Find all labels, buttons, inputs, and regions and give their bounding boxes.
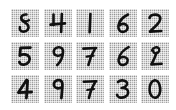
digit-tile-9[interactable] — [44, 75, 72, 103]
digit-tile-5[interactable] — [11, 42, 39, 70]
digit-tile-3[interactable] — [109, 75, 137, 103]
digit-glyph-two-icon — [141, 42, 169, 70]
digit-glyph-seven-icon — [76, 42, 104, 70]
digit-tile-8[interactable] — [11, 9, 39, 37]
digit-tile-7-crossed[interactable] — [76, 42, 104, 70]
digit-glyph-eight-icon — [11, 9, 39, 37]
digit-tile-9[interactable] — [44, 42, 72, 70]
digit-glyph-two-icon — [141, 9, 169, 37]
digit-glyph-zero-icon — [141, 75, 169, 103]
digit-glyph-five-icon — [11, 42, 39, 70]
digit-tile-1[interactable] — [76, 9, 104, 37]
digit-glyph-four-icon — [44, 9, 72, 37]
digit-tile-7-crossed[interactable] — [76, 75, 104, 103]
digit-tile-6[interactable] — [109, 42, 137, 70]
digit-tile-2-looped[interactable] — [141, 42, 169, 70]
digit-tile-2[interactable] — [141, 9, 169, 37]
digit-glyph-six-icon — [109, 42, 137, 70]
digit-tile-0[interactable] — [141, 75, 169, 103]
digit-grid — [11, 9, 169, 103]
digit-tile-4[interactable] — [44, 9, 72, 37]
digit-tile-4[interactable] — [11, 75, 39, 103]
digit-glyph-four-icon — [11, 75, 39, 103]
digit-glyph-three-icon — [109, 75, 137, 103]
digit-glyph-nine-icon — [44, 42, 72, 70]
digit-tile-6[interactable] — [109, 9, 137, 37]
digit-glyph-six-icon — [109, 9, 137, 37]
digit-glyph-one-icon — [76, 9, 104, 37]
digit-glyph-seven-icon — [76, 75, 104, 103]
digit-glyph-nine-icon — [44, 75, 72, 103]
